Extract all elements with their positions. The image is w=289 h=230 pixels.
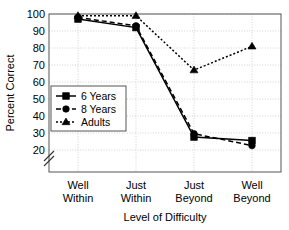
y-tick-label-70: 70 <box>33 59 45 71</box>
legend-label-6-years: 6 Years <box>81 90 116 102</box>
x-category-just-beyond-line1: Just <box>184 179 204 191</box>
chart-figure: 100 90 80 70 60 50 40 30 20 Percent Corr… <box>0 0 289 230</box>
x-category-just-beyond: Just Beyond <box>175 179 212 204</box>
y-tick-label-50: 50 <box>33 93 45 105</box>
legend-marker-circle-icon <box>63 106 70 113</box>
x-category-just-within: Just Within <box>121 179 152 204</box>
y-tick-label-60: 60 <box>33 76 45 88</box>
x-category-just-within-line2: Within <box>121 192 152 204</box>
x-axis-title: Level of Difficulty <box>124 211 207 223</box>
line-chart: 100 90 80 70 60 50 40 30 20 Percent Corr… <box>0 0 289 230</box>
legend-marker-square-icon <box>63 93 70 100</box>
x-category-just-within-line1: Just <box>126 179 146 191</box>
x-category-well-within-line2: Within <box>63 192 94 204</box>
y-tick-label-40: 40 <box>33 110 45 122</box>
x-category-well-within-line1: Well <box>67 179 88 191</box>
y-axis-title: Percent Correct <box>4 54 16 131</box>
y-tick-label-30: 30 <box>33 127 45 139</box>
data-point-6-years-just-within <box>133 24 140 31</box>
data-point-6-years-just-beyond <box>191 134 198 141</box>
x-category-well-beyond: Well Beyond <box>233 179 270 204</box>
y-tick-label-90: 90 <box>33 25 45 37</box>
x-category-well-beyond-line1: Well <box>241 179 262 191</box>
y-tick-label-20: 20 <box>33 144 45 156</box>
x-category-well-beyond-line2: Beyond <box>233 192 270 204</box>
x-axis-category-labels: Well Within Just Within Just Beyond Well… <box>63 179 271 204</box>
chart-legend: 6 Years 8 Years Adults <box>51 86 126 131</box>
y-tick-label-80: 80 <box>33 42 45 54</box>
legend-label-adults: Adults <box>81 116 110 128</box>
data-point-6-years-well-beyond <box>249 137 256 144</box>
x-category-just-beyond-line2: Beyond <box>175 192 212 204</box>
y-axis-tick-labels: 100 90 80 70 60 50 40 30 20 <box>27 8 45 156</box>
legend-label-8-years: 8 Years <box>81 103 116 115</box>
y-tick-label-100: 100 <box>27 8 45 20</box>
data-point-6-years-well-within <box>75 16 82 23</box>
x-category-well-within: Well Within <box>63 179 94 204</box>
